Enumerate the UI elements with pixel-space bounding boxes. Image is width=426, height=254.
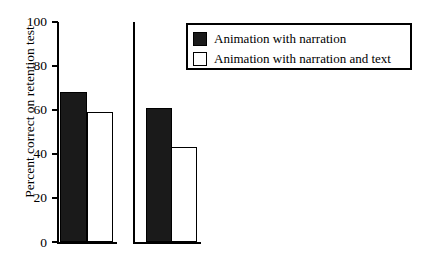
y-tick-label-100: 100 [13, 15, 47, 29]
chart-figure: Percent correct on retention test 100 80… [0, 0, 426, 254]
y-axis-line-group-2 [133, 22, 135, 244]
y-tick-label-60: 60 [13, 103, 47, 117]
x-axis-line-group-1 [57, 242, 117, 244]
x-axis-line-group-2 [133, 242, 201, 244]
legend-swatch-hollow-icon [193, 52, 207, 66]
y-tick-label-80: 80 [13, 59, 47, 73]
bar-group-2-animation-with-narration [146, 108, 172, 242]
legend: Animation with narration Animation with … [186, 23, 412, 70]
legend-item-animation-with-narration: Animation with narration [193, 29, 405, 48]
y-tick-label-20: 20 [13, 191, 47, 205]
y-tick-label-0: 0 [13, 236, 47, 250]
legend-label-2: Animation with narration and text [214, 52, 391, 66]
y-tick-label-40: 40 [13, 147, 47, 161]
legend-swatch-filled-icon [193, 32, 207, 46]
bar-group-2-animation-with-narration-and-text [171, 147, 197, 242]
y-axis-line-group-1 [57, 22, 59, 244]
legend-item-animation-with-narration-and-text: Animation with narration and text [193, 49, 405, 68]
bar-group-1-animation-with-narration-and-text [87, 112, 113, 242]
bar-group-1-animation-with-narration [60, 92, 87, 242]
legend-label-1: Animation with narration [214, 32, 346, 46]
